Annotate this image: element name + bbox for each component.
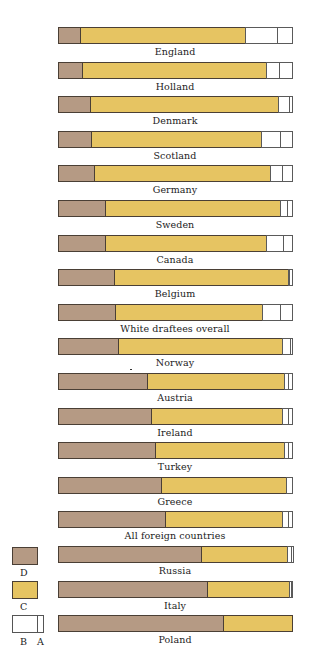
stacked-bar	[58, 442, 292, 459]
legend-swatch-c	[12, 581, 38, 599]
bar-label: Italy	[58, 600, 292, 612]
bar-segment-b	[266, 235, 284, 252]
bar-label: Ireland	[58, 427, 292, 439]
bar-segment-a	[280, 304, 293, 321]
bar-label: Russia	[58, 565, 292, 577]
bar-segment-a	[287, 200, 293, 217]
legend-swatch-a	[37, 615, 44, 633]
bar-segment-d	[58, 27, 81, 44]
bar-label: Sweden	[58, 219, 292, 231]
bar-segment-c	[82, 62, 267, 79]
bar-segment-a	[290, 338, 293, 355]
bar-segment-d	[58, 304, 116, 321]
bar-segment-b	[286, 477, 293, 494]
bar-segment-d	[58, 62, 83, 79]
bar-segment-a	[291, 546, 294, 563]
bar-segment-a	[283, 235, 293, 252]
bar-segment-c	[201, 546, 288, 563]
bar-segment-b	[245, 27, 278, 44]
bar-segment-a	[279, 62, 293, 79]
bar-segment-c	[165, 511, 283, 528]
stray-mark	[130, 369, 132, 370]
bar-segment-c	[80, 27, 246, 44]
stacked-bar	[58, 546, 292, 563]
bar-segment-d	[58, 408, 152, 425]
stacked-bar	[58, 338, 292, 355]
bar-segment-c	[114, 269, 289, 286]
bar-segment-c	[115, 304, 263, 321]
stacked-bar	[58, 408, 292, 425]
bar-segment-d	[58, 200, 106, 217]
bar-segment-d	[58, 581, 208, 598]
bar-segment-c	[94, 165, 271, 182]
bar-segment-c	[151, 408, 283, 425]
legend-swatch-d	[12, 547, 38, 565]
legend-swatch-b	[12, 615, 38, 633]
bar-label: Poland	[58, 634, 292, 646]
bar-label: White draftees overall	[58, 323, 292, 335]
bar-segment-d	[58, 235, 106, 252]
bar-segment-d	[58, 269, 115, 286]
bar-label: Norway	[58, 357, 292, 369]
bar-label: Greece	[58, 496, 292, 508]
bar-label: Turkey	[58, 461, 292, 473]
bar-label: Austria	[58, 392, 292, 404]
stacked-bar	[58, 200, 292, 217]
legend-label-a: A	[37, 636, 44, 648]
stacked-bar	[58, 581, 292, 598]
bar-segment-b	[262, 304, 281, 321]
bar-segment-d	[58, 338, 119, 355]
bar-segment-b	[261, 131, 281, 148]
bar-segment-d	[58, 96, 91, 113]
stacked-bar	[58, 615, 292, 632]
stacked-bar	[58, 477, 292, 494]
bar-segment-c	[207, 581, 290, 598]
stacked-bar	[58, 96, 292, 113]
bar-segment-c	[90, 96, 279, 113]
stacked-bar	[58, 27, 292, 44]
stacked-bar	[58, 373, 292, 390]
bar-segment-a	[289, 269, 293, 286]
stacked-bar	[58, 131, 292, 148]
legend-label-b: B	[20, 636, 27, 648]
bar-label: Holland	[58, 81, 292, 93]
bar-segment-a	[282, 165, 293, 182]
bar-segment-c	[147, 373, 285, 390]
bar-segment-a	[277, 27, 293, 44]
stacked-bar	[58, 304, 292, 321]
bar-segment-d	[58, 442, 156, 459]
bar-label: England	[58, 46, 292, 58]
bar-segment-d	[58, 477, 162, 494]
bar-segment-c	[91, 131, 262, 148]
stacked-bar	[58, 165, 292, 182]
bar-label: Scotland	[58, 150, 292, 162]
bar-segment-c	[105, 235, 267, 252]
bar-label: Belgium	[58, 288, 292, 300]
bar-segment-d	[58, 615, 224, 632]
bar-label: Germany	[58, 184, 292, 196]
bar-segment-d	[58, 511, 166, 528]
stacked-bar	[58, 235, 292, 252]
bar-segment-a	[288, 408, 293, 425]
stacked-bar	[58, 269, 292, 286]
bar-segment-d	[58, 165, 95, 182]
bar-label: Canada	[58, 254, 292, 266]
bar-label: Denmark	[58, 115, 292, 127]
stacked-bar	[58, 62, 292, 79]
bar-segment-a	[289, 96, 293, 113]
bar-segment-a	[291, 581, 293, 598]
bar-segment-a	[288, 442, 293, 459]
bar-segment-c	[118, 338, 283, 355]
bar-segment-a	[288, 511, 293, 528]
bar-segment-d	[58, 546, 202, 563]
bar-segment-c	[161, 477, 287, 494]
bar-segment-a	[280, 131, 293, 148]
legend-label-c: C	[20, 601, 27, 613]
bar-label: All foreign countries	[58, 530, 292, 542]
bar-segment-d	[58, 131, 92, 148]
bar-segment-a	[288, 373, 293, 390]
bar-segment-c	[155, 442, 285, 459]
bar-segment-c	[223, 615, 294, 632]
bar-segment-b	[266, 62, 280, 79]
bar-segment-d	[58, 373, 148, 390]
